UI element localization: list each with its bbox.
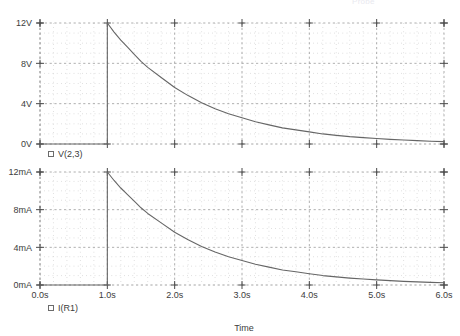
y-tick-label: 4mA	[13, 243, 32, 253]
legend-voltage-label: V(2,3)	[58, 149, 83, 159]
x-tick-label: 0.0s	[31, 290, 49, 300]
legend-current-label: I(R1)	[58, 303, 78, 313]
legend-voltage[interactable]: V(2,3)	[48, 149, 83, 159]
x-tick-label: 5.0s	[368, 290, 386, 300]
legend-marker-square-icon	[48, 305, 54, 311]
current-plot-panel[interactable]: 12mA8mA4mA0mA0.0s1.0s2.0s3.0s4.0s5.0s6.0…	[0, 0, 460, 336]
x-tick-label: 6.0s	[435, 290, 453, 300]
y-tick-label: 12mA	[8, 167, 32, 177]
y-tick-label: 0mA	[13, 280, 32, 290]
gridlines	[40, 172, 444, 285]
plot-window: Probe 12V8V4V0V 12mA8mA4mA0mA0.0s1.0s2.0…	[0, 0, 460, 336]
y-tick-label: 8mA	[13, 205, 32, 215]
legend-current[interactable]: I(R1)	[48, 303, 78, 313]
x-tick-label: 3.0s	[233, 290, 251, 300]
x-tick-label: 2.0s	[166, 290, 184, 300]
x-tick-label: 4.0s	[301, 290, 319, 300]
x-tick-label: 1.0s	[99, 290, 117, 300]
current-plot-canvas[interactable]: 12mA8mA4mA0mA0.0s1.0s2.0s3.0s4.0s5.0s6.0…	[0, 0, 460, 336]
legend-marker-square-icon	[48, 151, 54, 157]
x-axis-title: Time	[234, 323, 254, 333]
